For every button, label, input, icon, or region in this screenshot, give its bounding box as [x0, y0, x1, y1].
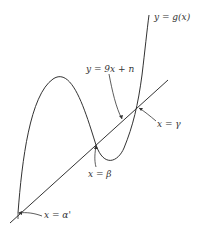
leader-alpha	[19, 213, 42, 216]
label-x-gamma: x = γ	[157, 120, 181, 129]
curve-g-of-x	[18, 15, 149, 213]
label-x-alpha: x = α'	[44, 211, 71, 220]
diagram-canvas	[0, 0, 197, 235]
label-curve-g: y = g(x)	[154, 13, 190, 22]
arrowhead-line-label	[119, 115, 123, 119]
leader-beta	[95, 146, 96, 167]
leader-line-label	[109, 74, 122, 119]
label-line-equation: y = 9x + n	[86, 65, 134, 74]
line-9x-plus-n	[10, 80, 168, 223]
label-x-beta: x = β	[88, 170, 112, 179]
